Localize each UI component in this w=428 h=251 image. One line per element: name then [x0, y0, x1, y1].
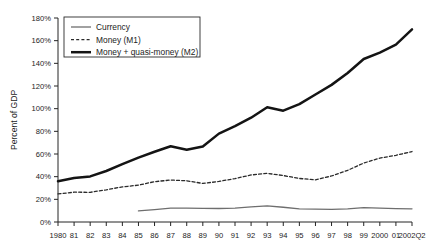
chart-legend: CurrencyMoney (M1)Money + quasi-money (M…: [64, 17, 200, 57]
x-tick-label: 89: [199, 231, 207, 240]
x-tick-label: 99: [360, 231, 368, 240]
x-tick-label: 98: [343, 231, 351, 240]
x-tick-label: 2000: [371, 231, 388, 240]
x-tick-label: 1980: [50, 231, 67, 240]
legend-label-3: Money + quasi-money (M2): [96, 47, 198, 57]
y-tick-label: 60%: [36, 150, 51, 159]
y-axis-title: Percent of GDP: [9, 90, 19, 150]
x-tick-label: 92: [247, 231, 255, 240]
x-tick-label: 87: [166, 231, 174, 240]
x-tick-label: 2002Q2: [398, 231, 425, 240]
x-tick-label: 82: [86, 231, 94, 240]
legend-label-2: Money (M1): [96, 35, 141, 45]
y-tick-label: 100%: [32, 104, 52, 113]
x-tick-label: 95: [295, 231, 303, 240]
x-tick-label: 94: [279, 231, 287, 240]
legend-label-1: Currency: [96, 22, 131, 32]
y-tick-label: 120%: [32, 82, 52, 91]
x-tick-label: 83: [102, 231, 110, 240]
x-tick-label: 84: [118, 231, 126, 240]
x-tick-label: 85: [134, 231, 142, 240]
y-tick-label: 0%: [40, 218, 51, 227]
y-tick-label: 160%: [32, 36, 52, 45]
x-tick-label: 96: [311, 231, 319, 240]
chart-figure: 0%20%40%60%80%100%120%140%160%180% 19808…: [0, 0, 428, 251]
x-tick-label: 90: [215, 231, 223, 240]
y-tick-label: 140%: [32, 59, 52, 68]
x-tick-label: 97: [327, 231, 335, 240]
y-tick-label: 20%: [36, 195, 51, 204]
x-tick-label: 93: [263, 231, 271, 240]
x-tick-label: 86: [150, 231, 158, 240]
y-tick-label: 40%: [36, 172, 51, 181]
chart-svg: 0%20%40%60%80%100%120%140%160%180% 19808…: [0, 0, 428, 251]
x-tick-label: 88: [183, 231, 191, 240]
x-tick-label: 81: [70, 231, 78, 240]
y-tick-label: 180%: [32, 14, 52, 23]
y-tick-label: 80%: [36, 127, 51, 136]
x-tick-label: 91: [231, 231, 239, 240]
